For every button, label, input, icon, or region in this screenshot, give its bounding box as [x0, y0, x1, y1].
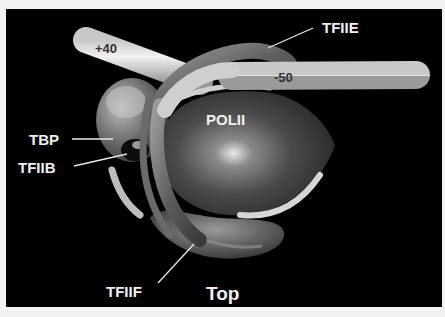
dna-upstream-label: -50 [274, 70, 293, 85]
tfiif-label: TFIIF [106, 283, 142, 300]
tbp-label: TBP [29, 131, 59, 148]
polii-label: POLII [206, 111, 245, 128]
preinitiation-complex-diagram: +40 -50 POLII TFIIE TBP TFIIB TFIIF Top [0, 0, 445, 317]
tfiie-label: TFIIE [322, 19, 359, 36]
tfiib-label: TFIIB [18, 159, 56, 176]
view-label: Top [206, 283, 239, 304]
dna-downstream-label: +40 [95, 41, 117, 56]
